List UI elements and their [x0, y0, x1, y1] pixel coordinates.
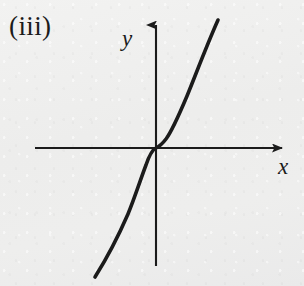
figure-container: (iii) y x — [0, 0, 304, 286]
cubic-graph-plot — [0, 0, 304, 286]
y-axis-label: y — [122, 27, 132, 50]
part-label: (iii) — [9, 13, 52, 40]
x-axis-label: x — [278, 155, 288, 178]
